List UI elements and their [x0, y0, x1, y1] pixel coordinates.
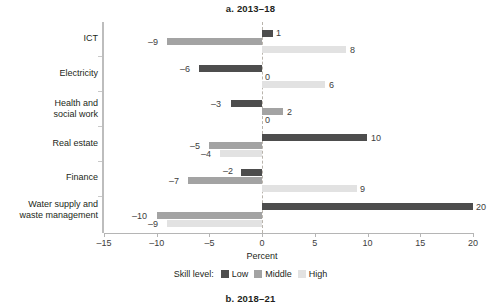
legend-label-middle: Middle [265, 269, 292, 279]
value-finance-middle: –7 [169, 178, 179, 185]
plot-area: 1 –9 8 –6 0 6 –3 2 0 10 –5 –4 –2 –7 9 20 [104, 22, 473, 233]
bar-water-low[interactable] [262, 203, 473, 210]
category-separator [98, 56, 102, 57]
value-finance-low: –2 [223, 168, 233, 175]
x-tick [315, 233, 316, 237]
legend-label-high: High [309, 269, 328, 279]
bar-health-middle[interactable] [262, 108, 283, 115]
category-label-line1: Health and [2, 98, 98, 109]
value-water-middle: –10 [132, 213, 147, 220]
legend-swatch-middle-icon [254, 270, 262, 278]
x-axis-title: Percent [246, 251, 277, 261]
value-electricity-high: 6 [329, 82, 334, 89]
bar-finance-middle[interactable] [188, 177, 262, 184]
value-axis-line [104, 233, 474, 234]
category-label-line1: Water supply and [2, 199, 98, 210]
x-tick-label: –15 [96, 238, 111, 248]
category-label-water-supply-and-waste-management: Water supply and waste management [2, 199, 98, 220]
value-ict-middle: –9 [148, 39, 158, 46]
bar-finance-high[interactable] [262, 185, 357, 192]
value-electricity-low: –6 [180, 66, 190, 73]
chart-title-bottom: b. 2018–21 [0, 293, 501, 304]
x-tick-label: –10 [149, 238, 164, 248]
bar-electricity-high[interactable] [262, 81, 325, 88]
bar-ict-middle[interactable] [167, 38, 262, 45]
x-tick [368, 233, 369, 237]
value-ict-high: 8 [350, 47, 355, 54]
bar-ict-high[interactable] [262, 46, 346, 53]
legend-item-high[interactable]: High [298, 269, 328, 279]
category-label-line1: Real estate [2, 138, 98, 149]
category-label-line2: waste management [2, 210, 98, 221]
category-label-line1: Finance [2, 172, 98, 183]
x-tick-label: 20 [468, 238, 478, 248]
category-separator [98, 161, 102, 162]
x-tick [420, 233, 421, 237]
value-water-high: –9 [148, 221, 158, 228]
bar-ict-low[interactable] [262, 30, 273, 37]
value-health-middle: 2 [287, 109, 292, 116]
bar-electricity-low[interactable] [199, 65, 262, 72]
value-real-estate-middle: –5 [190, 143, 200, 150]
x-tick [209, 233, 210, 237]
category-label-ict: ICT [2, 33, 98, 44]
bar-water-middle[interactable] [157, 212, 262, 219]
bar-health-low[interactable] [231, 100, 263, 107]
value-real-estate-low: 10 [371, 135, 381, 142]
value-ict-low: 1 [276, 30, 281, 37]
value-health-low: –3 [211, 101, 221, 108]
category-label-electricity: Electricity [2, 68, 98, 79]
value-real-estate-high: –4 [201, 151, 211, 158]
bar-real-estate-high[interactable] [220, 150, 262, 157]
value-finance-high: 9 [360, 186, 365, 193]
x-tick [104, 233, 105, 237]
x-tick [262, 233, 263, 237]
value-electricity-middle: 0 [265, 74, 270, 81]
x-tick-label: 15 [415, 238, 425, 248]
legend-item-middle[interactable]: Middle [254, 269, 292, 279]
value-health-high: 0 [265, 117, 270, 124]
category-label-line1: ICT [2, 33, 98, 44]
grouped-bar-chart: a. 2013–18 ICT Electricity Health and so… [0, 0, 501, 308]
category-separator [98, 196, 102, 197]
legend-swatch-low-icon [221, 270, 229, 278]
category-label-finance: Finance [2, 172, 98, 183]
category-label-line2: social work [2, 109, 98, 120]
x-tick-label: 0 [260, 238, 265, 248]
value-water-low: 20 [476, 204, 486, 211]
x-tick [473, 233, 474, 237]
bar-water-high[interactable] [167, 220, 262, 227]
x-tick-label: 5 [312, 238, 317, 248]
category-axis-labels: ICT Electricity Health and social work R… [0, 0, 98, 308]
legend-label-low: Low [232, 269, 249, 279]
category-label-real-estate: Real estate [2, 138, 98, 149]
zero-reference-line [262, 22, 263, 233]
category-separator [98, 91, 102, 92]
legend-title: Skill level: [174, 269, 214, 279]
legend: Skill level: Low Middle High [0, 269, 501, 279]
bar-real-estate-middle[interactable] [209, 142, 262, 149]
x-tick-label: 10 [362, 238, 372, 248]
category-label-line1: Electricity [2, 68, 98, 79]
x-tick-label: –5 [204, 238, 214, 248]
category-label-health-and-social-work: Health and social work [2, 98, 98, 119]
bar-finance-low[interactable] [241, 169, 262, 176]
category-separator [98, 126, 102, 127]
legend-swatch-high-icon [298, 270, 306, 278]
legend-item-low[interactable]: Low [221, 269, 249, 279]
x-tick [157, 233, 158, 237]
bar-real-estate-low[interactable] [262, 134, 367, 141]
